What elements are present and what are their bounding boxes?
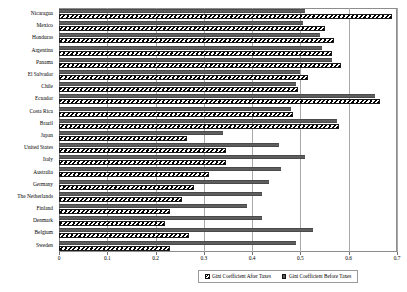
y-axis-label-text: Sweden	[36, 243, 53, 248]
y-axis-label-text: Japan	[41, 133, 53, 138]
bar-after-taxes	[59, 124, 339, 129]
y-axis-label: Australia	[0, 166, 57, 178]
x-axis-tick-label: 0.1	[104, 256, 111, 261]
bar-row	[59, 106, 397, 118]
bar-after-taxes	[59, 197, 182, 202]
y-axis-label: Panama	[0, 57, 57, 69]
bar-before-taxes	[59, 70, 300, 74]
x-axis-tick-label: 0.7	[394, 256, 401, 261]
bar-rows	[59, 8, 397, 252]
x-axis: 00.10.20.30.40.50.60.7	[59, 252, 397, 266]
bar-after-taxes	[59, 112, 293, 117]
hatch-swatch-icon	[205, 274, 210, 279]
bar-after-taxes	[59, 172, 209, 177]
bar-before-taxes	[59, 228, 313, 232]
bar-before-taxes	[59, 143, 279, 147]
y-axis-label: Mexico	[0, 20, 57, 32]
y-axis-label-text: Panama	[36, 60, 53, 65]
gini-coefficient-bar-chart: NicaraguaMexicoHondurasArgentinaPanamaEl…	[0, 0, 407, 292]
y-axis-label: Honduras	[0, 32, 57, 44]
bar-row	[59, 93, 397, 105]
legend-label-after-taxes: Gini Coefficient After Taxes	[212, 274, 271, 279]
y-axis-label-text: Belgium	[34, 231, 53, 236]
x-axis-tick-label: 0.2	[152, 256, 159, 261]
bar-row	[59, 240, 397, 252]
y-axis-label-text: The Netherlands	[17, 194, 53, 199]
bar-row	[59, 118, 397, 130]
y-axis-label-text: Argentina	[32, 48, 53, 53]
bar-before-taxes	[59, 131, 223, 135]
x-axis-tick-label: 0.5	[297, 256, 304, 261]
bar-after-taxes	[59, 99, 380, 104]
bar-after-taxes	[59, 75, 308, 80]
y-axis-label: Chile	[0, 81, 57, 93]
bar-row	[59, 191, 397, 203]
y-axis-label-text: Nicaragua	[31, 11, 53, 16]
bar-after-taxes	[59, 14, 392, 19]
bar-before-taxes	[59, 167, 281, 171]
bar-before-taxes	[59, 216, 262, 220]
bar-after-taxes	[59, 160, 226, 165]
x-axis-tick-label: 0.4	[249, 256, 256, 261]
y-axis-label: Costa Rica	[0, 106, 57, 118]
bar-after-taxes	[59, 209, 170, 214]
bar-row	[59, 179, 397, 191]
bar-after-taxes	[59, 87, 298, 92]
y-axis-label-text: Honduras	[32, 36, 53, 41]
bar-after-taxes	[59, 246, 170, 251]
y-axis-label: Italy	[0, 154, 57, 166]
bar-row	[59, 81, 397, 93]
bar-after-taxes	[59, 63, 341, 68]
y-axis-label: Belgium	[0, 227, 57, 239]
bar-row	[59, 227, 397, 239]
bar-before-taxes	[59, 33, 320, 37]
plot-area	[59, 8, 397, 252]
bar-before-taxes	[59, 21, 303, 25]
bar-row	[59, 166, 397, 178]
y-axis-label-text: Italy	[43, 158, 53, 163]
x-axis-tick-label: 0.3	[200, 256, 207, 261]
y-axis-label-text: Germany	[33, 182, 53, 187]
bar-row	[59, 203, 397, 215]
bar-after-taxes	[59, 51, 332, 56]
y-axis-label: Denmark	[0, 215, 57, 227]
legend-label-before-taxes: Gini Coefficient Before Taxes	[289, 274, 351, 279]
bar-row	[59, 130, 397, 142]
bar-before-taxes	[59, 9, 305, 13]
bar-before-taxes	[59, 107, 291, 111]
bar-before-taxes	[59, 241, 296, 245]
y-axis-labels: NicaraguaMexicoHondurasArgentinaPanamaEl…	[0, 8, 57, 252]
legend-item-before-taxes: Gini Coefficient Before Taxes	[282, 274, 351, 279]
bar-after-taxes	[59, 136, 187, 141]
x-axis-tick-label: 0	[58, 256, 61, 261]
bar-before-taxes	[59, 94, 375, 98]
bar-row	[59, 57, 397, 69]
y-axis-label-text: Brazil	[40, 121, 53, 126]
y-axis-label-text: United States	[24, 145, 53, 150]
y-axis-label: Germany	[0, 179, 57, 191]
bar-after-taxes	[59, 185, 194, 190]
bar-before-taxes	[59, 82, 296, 86]
bar-after-taxes	[59, 221, 165, 226]
x-axis-tick-label: 0.6	[345, 256, 352, 261]
y-axis-label-text: Costa Rica	[29, 109, 53, 114]
y-axis-label: Ecuador	[0, 93, 57, 105]
y-axis-label-text: Australia	[33, 170, 53, 175]
y-axis-label-text: Finland	[37, 206, 53, 211]
bar-row	[59, 45, 397, 57]
bar-before-taxes	[59, 180, 269, 184]
y-axis-label: Nicaragua	[0, 8, 57, 20]
bar-after-taxes	[59, 233, 189, 238]
bar-row	[59, 69, 397, 81]
bar-row	[59, 154, 397, 166]
y-axis-label: Japan	[0, 130, 57, 142]
bar-row	[59, 215, 397, 227]
y-axis-label: Sweden	[0, 240, 57, 252]
bar-after-taxes	[59, 26, 325, 31]
bar-after-taxes	[59, 38, 334, 43]
y-axis-label-text: Denmark	[33, 219, 53, 224]
y-axis-label: Brazil	[0, 118, 57, 130]
chart-legend: Gini Coefficient After Taxes Gini Coeffi…	[198, 270, 358, 283]
y-axis-label-text: El Salvador	[28, 72, 53, 77]
bar-before-taxes	[59, 204, 247, 208]
